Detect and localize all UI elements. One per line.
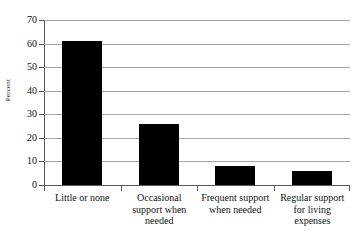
x-axis-tick	[274, 186, 275, 191]
bar-chart: Percent 010203040506070 Little or noneOc…	[0, 0, 361, 237]
x-axis-category-label-line: needed	[115, 215, 204, 227]
x-axis-category-label-line: expenses	[268, 215, 357, 227]
y-axis-tick-label-wrap: 70	[0, 15, 37, 25]
y-axis-tick-label-wrap: 60	[0, 39, 37, 49]
x-axis-category-label-line: for living	[268, 204, 357, 216]
bar	[62, 41, 102, 185]
y-axis-tick	[39, 114, 44, 115]
x-axis-tick	[197, 186, 198, 191]
y-axis-tick-label: 50	[1, 62, 37, 72]
y-axis-tick-label-wrap: 40	[0, 86, 37, 96]
y-axis-tick-label-wrap: 50	[0, 62, 37, 72]
x-axis-labels: Little or noneOccasionalsupport whenneed…	[44, 192, 354, 237]
x-axis-category-label-line: Frequent support	[191, 192, 280, 204]
x-axis-tick	[121, 186, 122, 191]
x-axis-category-label: Frequent supportwhen needed	[191, 192, 280, 215]
bar	[215, 166, 255, 185]
bar	[139, 124, 179, 185]
y-axis-tick-label: 0	[1, 180, 37, 190]
x-axis-tick	[44, 186, 45, 191]
y-axis-tick-label: 60	[1, 39, 37, 49]
x-axis-category-label-line: Regular support	[268, 192, 357, 204]
y-axis-tick-label-wrap: 30	[0, 109, 37, 119]
x-axis-ticks	[44, 186, 350, 191]
y-axis-tick-label: 40	[1, 86, 37, 96]
x-axis-tick	[349, 186, 350, 191]
x-axis-category-label-line: Little or none	[38, 192, 127, 204]
bar	[292, 171, 332, 185]
plot-area	[44, 20, 350, 185]
y-axis-tick-label-wrap: 0	[0, 180, 37, 190]
x-axis-category-label-line: when needed	[191, 204, 280, 216]
y-axis-tick-label: 10	[1, 156, 37, 166]
gridline	[44, 20, 350, 21]
y-axis-tick-label-wrap: 20	[0, 133, 37, 143]
y-axis-tick-label-wrap: 10	[0, 156, 37, 166]
chart-title	[0, 0, 361, 2]
y-axis-tick	[39, 44, 44, 45]
y-axis-tick	[39, 67, 44, 68]
y-axis-tick	[39, 20, 44, 21]
y-axis-tick	[39, 161, 44, 162]
x-axis-category-label: Regular supportfor livingexpenses	[268, 192, 357, 227]
y-axis-tick-label: 70	[1, 15, 37, 25]
y-axis-tick	[39, 91, 44, 92]
x-axis-category-label: Little or none	[38, 192, 127, 204]
y-axis-tick	[39, 138, 44, 139]
y-axis-tick-label: 30	[1, 109, 37, 119]
y-axis-tick-label: 20	[1, 133, 37, 143]
